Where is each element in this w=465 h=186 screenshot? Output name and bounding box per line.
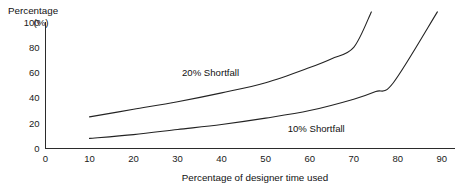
x-tick-label-90: 90: [437, 153, 448, 164]
x-tick-label-0: 0: [43, 153, 48, 164]
data-series-group: [90, 12, 438, 139]
y-tick-label-60: 60: [29, 67, 40, 78]
x-tick-label-40: 40: [216, 153, 227, 164]
x-tick-label-10: 10: [84, 153, 95, 164]
x-axis-title: Percentage of designer time used: [182, 172, 329, 183]
y-tick-label-80: 80: [29, 42, 40, 53]
y-tick-label-20: 20: [29, 118, 40, 129]
x-tick-label-60: 60: [304, 153, 315, 164]
series-label-20-percent-shortfall: 20% Shortfall: [182, 67, 239, 78]
y-tick-label-0: 0: [34, 143, 39, 154]
x-tick-label-20: 20: [128, 153, 139, 164]
x-tick-label-30: 30: [172, 153, 183, 164]
line-chart: Percentage (%) 020406080100 010203040506…: [0, 0, 465, 186]
series-line-10-percent-shortfall: [90, 12, 438, 139]
series-line-20-percent-shortfall: [90, 12, 372, 117]
x-tick-label-70: 70: [348, 153, 359, 164]
y-axis-tick-labels: 020406080100: [24, 17, 40, 155]
y-tick-label-40: 40: [29, 92, 40, 103]
x-tick-label-50: 50: [260, 153, 271, 164]
series-annotations-group: 20% Shortfall10% Shortfall: [182, 67, 345, 134]
chart-container: Percentage (%) 020406080100 010203040506…: [0, 0, 465, 186]
series-label-10-percent-shortfall: 10% Shortfall: [288, 123, 345, 134]
y-axis-title: Percentage: [8, 5, 59, 16]
x-axis-tick-labels: 0102030405060708090: [43, 153, 447, 164]
y-tick-label-100: 100: [24, 17, 40, 28]
x-tick-label-80: 80: [392, 153, 403, 164]
